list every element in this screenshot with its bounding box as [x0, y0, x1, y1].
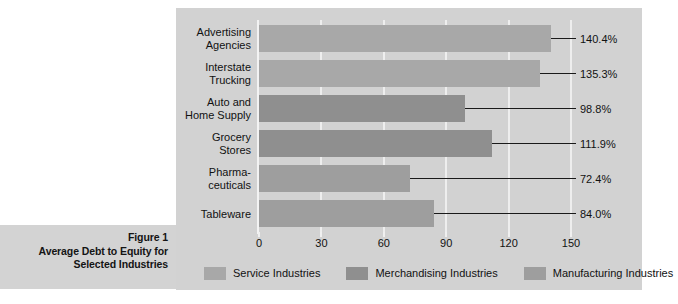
- x-axis-tick-label: 60: [364, 237, 404, 249]
- category-label-line: Pharma-: [111, 166, 251, 179]
- bar-row: Pharma-ceuticals72.4%: [176, 161, 642, 196]
- category-label: GroceryStores: [111, 131, 251, 157]
- bar-row: Tableware84.0%: [176, 196, 642, 231]
- chart-legend: Service IndustriesMerchandising Industri…: [204, 264, 678, 282]
- category-label-line: Grocery: [111, 131, 251, 144]
- category-label-line: Advertising: [111, 26, 251, 39]
- x-axis-tick-label: 120: [489, 237, 529, 249]
- legend-item[interactable]: Manufacturing Industries: [524, 267, 673, 280]
- bar-row: GroceryStores111.9%: [176, 126, 642, 161]
- figure-caption-band: Figure 1 Average Debt to Equity for Sele…: [0, 225, 176, 289]
- bar-value-label: 98.8%: [580, 103, 611, 115]
- category-label-line: Home Supply: [111, 109, 251, 122]
- value-leader-line: [434, 213, 576, 214]
- category-label-line: Trucking: [111, 74, 251, 87]
- bar-value-label: 72.4%: [580, 173, 611, 185]
- figure-caption-line-2: Average Debt to Equity for: [6, 245, 168, 259]
- x-axis-tick-label: 30: [301, 237, 341, 249]
- legend-label: Manufacturing Industries: [553, 267, 673, 279]
- category-label-line: Auto and: [111, 96, 251, 109]
- category-label-line: Tableware: [111, 207, 251, 220]
- value-leader-line: [551, 38, 576, 39]
- value-leader-line: [492, 143, 576, 144]
- legend-label: Merchandising Industries: [375, 267, 497, 279]
- x-axis: 0306090120150: [176, 232, 642, 254]
- bar[interactable]: [259, 25, 551, 52]
- bar-value-label: 84.0%: [580, 208, 611, 220]
- category-label-line: ceuticals: [111, 179, 251, 192]
- category-label: InterstateTrucking: [111, 61, 251, 87]
- value-leader-line: [540, 73, 576, 74]
- legend-item[interactable]: Service Industries: [204, 267, 320, 280]
- legend-label: Service Industries: [233, 267, 320, 279]
- legend-swatch-icon: [524, 267, 546, 280]
- category-label: Auto andHome Supply: [111, 96, 251, 122]
- x-axis-tick-label: 90: [426, 237, 466, 249]
- bar-row: AdvertisingAgencies140.4%: [176, 21, 642, 56]
- category-label-line: Stores: [111, 144, 251, 157]
- bar[interactable]: [259, 95, 465, 122]
- legend-swatch-icon: [346, 267, 368, 280]
- figure-caption-text: Figure 1 Average Debt to Equity for Sele…: [6, 231, 168, 272]
- bar-row: Auto andHome Supply98.8%: [176, 91, 642, 126]
- legend-swatch-icon: [204, 267, 226, 280]
- x-axis-tick-label: 150: [551, 237, 591, 249]
- chart-panel: AdvertisingAgencies140.4%InterstateTruck…: [176, 8, 642, 290]
- category-label: Pharma-ceuticals: [111, 166, 251, 192]
- category-label-line: Interstate: [111, 61, 251, 74]
- bar[interactable]: [259, 60, 540, 87]
- legend-item[interactable]: Merchandising Industries: [346, 267, 497, 280]
- bar-value-label: 135.3%: [580, 68, 617, 80]
- bar[interactable]: [259, 165, 410, 192]
- category-label-line: Agencies: [111, 39, 251, 52]
- bar[interactable]: [259, 200, 434, 227]
- figure-caption-line-3: Selected Industries: [6, 258, 168, 272]
- bar-value-label: 111.9%: [580, 138, 616, 150]
- category-label: AdvertisingAgencies: [111, 26, 251, 52]
- bar[interactable]: [259, 130, 492, 157]
- figure-caption-line-1: Figure 1: [6, 231, 168, 245]
- plot-area: AdvertisingAgencies140.4%InterstateTruck…: [176, 20, 642, 232]
- value-leader-line: [410, 178, 576, 179]
- category-label: Tableware: [111, 207, 251, 220]
- bar-row: InterstateTrucking135.3%: [176, 56, 642, 91]
- x-axis-tick-label: 0: [239, 237, 279, 249]
- bar-value-label: 140.4%: [580, 33, 617, 45]
- value-leader-line: [465, 108, 576, 109]
